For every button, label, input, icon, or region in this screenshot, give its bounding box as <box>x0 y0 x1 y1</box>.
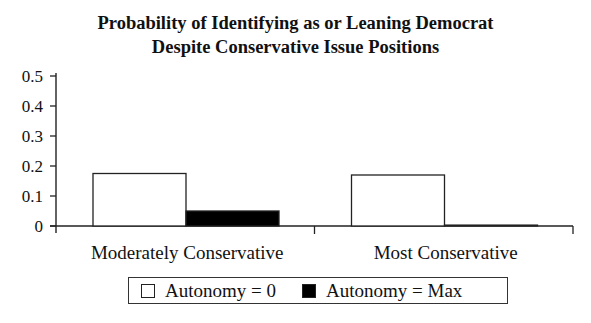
x-tick-label: Moderately Conservative <box>91 242 284 263</box>
labels: Moderately ConservativeMost Conservative… <box>22 67 518 263</box>
legend-swatch-white-icon <box>141 284 155 298</box>
y-tick-label: 0 <box>35 217 44 236</box>
y-tick-label: 0.2 <box>22 157 43 176</box>
legend-item-autonomy-max: Autonomy = Max <box>302 280 462 302</box>
legend-swatch-black-icon <box>302 284 316 298</box>
bar-autonomy-0 <box>352 175 445 226</box>
x-tick-label: Most Conservative <box>374 242 518 263</box>
bar-autonomy-0 <box>93 174 186 227</box>
legend-item-autonomy-0: Autonomy = 0 <box>141 280 276 302</box>
y-tick-label: 0.3 <box>22 127 43 146</box>
legend: Autonomy = 0 Autonomy = Max <box>128 277 508 304</box>
y-tick-label: 0.1 <box>22 187 43 206</box>
y-tick-label: 0.5 <box>22 67 43 86</box>
legend-label: Autonomy = 0 <box>165 280 276 302</box>
legend-label: Autonomy = Max <box>326 280 462 302</box>
bars <box>93 174 538 227</box>
bar-autonomy-max <box>445 225 538 226</box>
y-tick-label: 0.4 <box>22 97 44 116</box>
bar-chart: Moderately ConservativeMost Conservative… <box>0 0 591 323</box>
bar-autonomy-max <box>186 211 279 226</box>
